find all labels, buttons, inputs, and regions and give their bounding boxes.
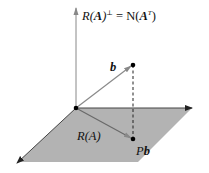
projection-label: Pb [135,144,150,158]
point-pb [131,137,136,142]
point-b [131,63,136,68]
column-space-label: R(A) [76,129,101,143]
vector-b [76,66,131,108]
null-space-label: R(A)⊥ = N(AT) [81,9,156,23]
vector-b-label: b [110,60,116,74]
projection-diagram: R(A)⊥ = N(AT) b R(A) Pb [0,0,209,173]
origin-point [74,106,79,111]
column-space-plane [18,108,192,162]
